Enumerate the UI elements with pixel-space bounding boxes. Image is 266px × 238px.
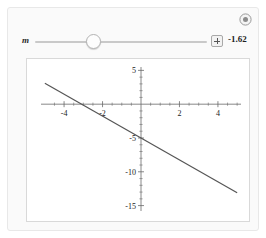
svg-text:-4: -4 (61, 109, 68, 118)
demonstration-app: m -1.62 -4-2245-5-10-15 (0, 0, 266, 238)
plus-circle-icon[interactable] (239, 12, 252, 25)
svg-text:-5: -5 (129, 134, 136, 143)
line-plot: -4-2245-5-10-15 (27, 59, 249, 221)
slider-thumb[interactable] (86, 34, 101, 49)
svg-text:-10: -10 (125, 168, 136, 177)
plot-frame: -4-2245-5-10-15 (26, 58, 250, 222)
slider-label: m (22, 35, 29, 45)
plus-icon[interactable] (211, 35, 223, 47)
svg-text:-15: -15 (125, 202, 136, 211)
slider-track[interactable] (35, 41, 207, 43)
svg-text:4: 4 (216, 109, 220, 118)
svg-text:5: 5 (132, 66, 136, 75)
demonstration-panel: m -1.62 -4-2245-5-10-15 (7, 7, 259, 231)
slider-control-row: m -1.62 (8, 31, 260, 53)
slider-value: -1.62 (228, 34, 247, 44)
slider-m[interactable] (35, 31, 207, 53)
svg-text:2: 2 (177, 109, 181, 118)
